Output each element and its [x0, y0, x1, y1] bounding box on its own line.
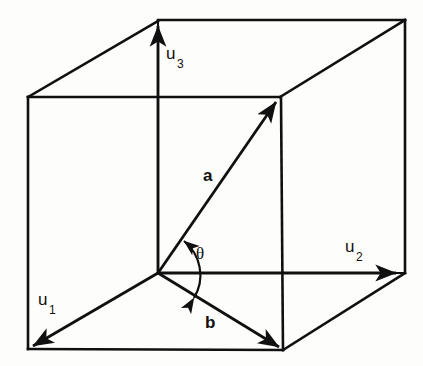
label-u2-base: u — [345, 237, 354, 256]
cube-wireframe — [28, 20, 405, 350]
label-u1-base: u — [38, 290, 47, 309]
label-u1-subscript: 1 — [49, 303, 56, 317]
label-angle-theta: θ — [196, 244, 204, 263]
cube-edge-diagonal-bottom-right — [283, 273, 405, 350]
label-u3-base: u — [166, 44, 175, 63]
cube-edge-diagonal-top-right — [280, 20, 405, 97]
label-group: u 3 u 2 u 1 a b θ — [38, 44, 363, 332]
vector-cube-diagram: u 3 u 2 u 1 a b θ — [0, 0, 423, 366]
vector-group — [33, 26, 396, 347]
label-u3-subscript: 3 — [177, 57, 184, 71]
cube-edge-front-right-vertical — [281, 97, 283, 350]
cube-edge-diagonal-top-left — [28, 21, 158, 97]
vector-a — [158, 102, 276, 273]
label-vector-a: a — [203, 166, 213, 185]
vector-b — [158, 273, 279, 347]
label-u2-subscript: 2 — [356, 250, 363, 264]
figure-canvas: u 3 u 2 u 1 a b θ — [0, 0, 423, 366]
cube-edge-front-bottom-horizontal — [28, 349, 283, 350]
label-vector-b: b — [205, 313, 215, 332]
